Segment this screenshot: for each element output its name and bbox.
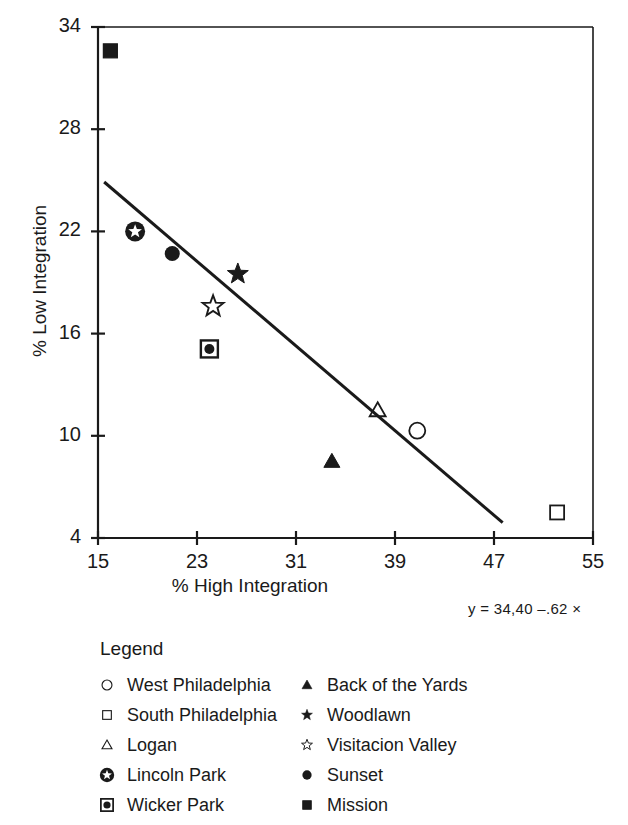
legend-item-label: Woodlawn: [327, 706, 411, 724]
marker-open-square: [103, 711, 112, 720]
marker-filled-star: [302, 709, 313, 719]
marker-filled-star: [227, 263, 248, 283]
marker-open-triangle: [102, 740, 112, 749]
legend-symbol: [96, 734, 118, 756]
legend-marker-open-star-icon: [296, 734, 318, 756]
legend-symbol: [96, 794, 118, 816]
legend-item: Logan: [96, 734, 296, 756]
legend-marker-filled-square-icon: [296, 794, 318, 816]
legend-symbol: [296, 764, 318, 786]
legend-symbol-group: [101, 799, 113, 811]
data-point-wicker-park: Wicker Park: [201, 340, 218, 357]
legend-item-label: Back of the Yards: [327, 676, 467, 694]
marker-open-star: [302, 739, 313, 749]
marker-filled-circle: [165, 246, 180, 261]
axes: [91, 27, 593, 545]
marker-filled-square: [303, 801, 312, 810]
y-tick-label: 34: [13, 14, 81, 37]
marker-filled-triangle: [302, 680, 312, 689]
legend-symbol-group: [302, 709, 313, 719]
legend-item: Mission: [296, 794, 536, 816]
marker-squared-circle-dot: [204, 344, 214, 354]
legend-marker-squared-circle-icon: [96, 794, 118, 816]
legend-item-label: Visitacion Valley: [327, 736, 456, 754]
x-tick-label: 47: [464, 550, 524, 573]
legend-title: Legend: [96, 638, 576, 660]
data-point-visitacion-valley: Visitacion Valley: [203, 295, 224, 315]
legend-marker-filled-star-icon: [296, 704, 318, 726]
legend-symbol: [296, 794, 318, 816]
legend: Legend West PhiladelphiaBack of the Yard…: [96, 638, 576, 820]
data-point-south-philadelphia: South Philadelphia: [550, 505, 564, 519]
legend-item-label: West Philadelphia: [127, 676, 271, 694]
legend-symbol-group: [102, 740, 112, 749]
y-axis-title: % Low Integration: [29, 161, 51, 401]
legend-symbol-group: [302, 770, 311, 779]
regression-line: [104, 182, 502, 523]
legend-grid: West PhiladelphiaBack of the YardsSouth …: [96, 670, 576, 820]
y-tick-label: 4: [13, 525, 81, 548]
data-point-woodlawn: Woodlawn: [227, 263, 248, 283]
x-tick-label: 31: [266, 550, 326, 573]
data-point-sunset: Sunset: [165, 246, 180, 261]
legend-item-label: Lincoln Park: [127, 766, 226, 784]
data-point-west-philadelphia: West Philadelphia: [409, 423, 425, 439]
legend-item: Woodlawn: [296, 704, 536, 726]
fit-line: [104, 182, 502, 523]
marker-open-square: [550, 505, 564, 519]
legend-symbol: [96, 674, 118, 696]
data-points: MissionLincoln ParkSunsetWoodlawnVisitac…: [103, 44, 564, 520]
legend-symbol: [96, 764, 118, 786]
legend-symbol-group: [303, 801, 312, 810]
data-point-back-of-the-yards: Back of the Yards: [324, 453, 340, 467]
legend-item: Sunset: [296, 764, 536, 786]
legend-item: Lincoln Park: [96, 764, 296, 786]
legend-item: Back of the Yards: [296, 674, 536, 696]
legend-item: Wicker Park: [96, 794, 296, 816]
data-point-lincoln-park: Lincoln Park: [125, 221, 145, 241]
legend-symbol: [296, 704, 318, 726]
legend-symbol: [96, 704, 118, 726]
marker-open-circle: [102, 680, 112, 690]
x-axis-title: % High Integration: [0, 575, 500, 597]
marker-open-star: [203, 295, 224, 315]
marker-filled-triangle: [324, 453, 340, 467]
legend-marker-circled-star-icon: [96, 764, 118, 786]
legend-item-label: Mission: [327, 796, 388, 814]
legend-marker-filled-circle-icon: [296, 764, 318, 786]
chart-plot-area: MissionLincoln ParkSunsetWoodlawnVisitac…: [0, 0, 628, 650]
legend-item-label: Sunset: [327, 766, 383, 784]
x-tick-label: 55: [563, 550, 623, 573]
y-tick-label: 28: [13, 116, 81, 139]
legend-symbol-group: [100, 768, 114, 782]
marker-squared-circle-dot: [103, 801, 110, 808]
legend-item-label: Wicker Park: [127, 796, 224, 814]
legend-symbol-group: [302, 680, 312, 689]
marker-filled-circle: [302, 770, 311, 779]
legend-symbol-group: [103, 711, 112, 720]
scatter-plot-figure: MissionLincoln ParkSunsetWoodlawnVisitac…: [0, 0, 628, 825]
legend-symbol: [296, 734, 318, 756]
legend-item: Visitacion Valley: [296, 734, 536, 756]
legend-marker-filled-triangle-icon: [296, 674, 318, 696]
y-tick-label: 10: [13, 423, 81, 446]
legend-item: West Philadelphia: [96, 674, 296, 696]
legend-symbol-group: [302, 739, 313, 749]
legend-item-label: South Philadelphia: [127, 706, 277, 724]
marker-open-circle: [409, 423, 425, 439]
legend-item-label: Logan: [127, 736, 177, 754]
x-tick-label: 39: [365, 550, 425, 573]
legend-item: South Philadelphia: [96, 704, 296, 726]
x-tick-label: 23: [167, 550, 227, 573]
legend-marker-open-square-icon: [96, 704, 118, 726]
legend-symbol: [296, 674, 318, 696]
marker-filled-square: [103, 44, 117, 58]
legend-marker-open-triangle-icon: [96, 734, 118, 756]
x-tick-label: 15: [68, 550, 128, 573]
legend-marker-open-circle-icon: [96, 674, 118, 696]
regression-equation-annotation: y = 34,40 –.62 ×: [468, 600, 581, 617]
data-point-mission: Mission: [103, 44, 117, 58]
legend-symbol-group: [102, 680, 112, 690]
